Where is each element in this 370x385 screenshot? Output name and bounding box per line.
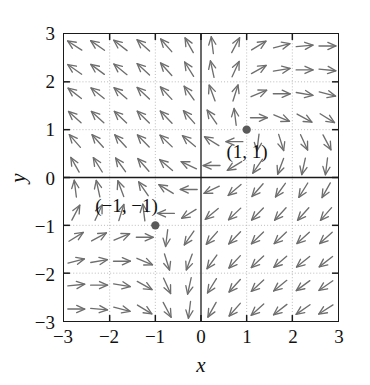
plot-area (63, 33, 339, 322)
y-tick-label: 2 (32, 72, 55, 91)
x-tick-label: −2 (99, 327, 119, 346)
x-tick-label: 2 (288, 327, 298, 346)
equilibrium-label-1-1: (1, 1) (226, 142, 267, 161)
y-tick-label: 1 (32, 120, 55, 139)
x-tick-label: 1 (242, 327, 252, 346)
y-axis-title: y (8, 173, 29, 182)
x-tick-label: −3 (53, 327, 73, 346)
vector-field-figure: −3 −2 −1 0 1 2 3 3 2 1 0 −1 −2 −3 x y (1… (0, 0, 370, 385)
vector-field-canvas (64, 34, 338, 321)
y-tick-label: −3 (32, 313, 55, 332)
axis-lines (64, 34, 338, 321)
x-tick-label: −1 (145, 327, 165, 346)
y-tick-label: −1 (32, 217, 55, 236)
equilibrium-label-neg1-neg1: (−1, −1) (95, 196, 158, 215)
x-axis-title: x (196, 355, 205, 376)
x-tick-label: 3 (334, 327, 344, 346)
y-tick-label: 0 (32, 169, 55, 188)
y-tick-label: 3 (32, 24, 55, 43)
y-tick-label: −2 (32, 265, 55, 284)
x-tick-label: 0 (196, 327, 206, 346)
